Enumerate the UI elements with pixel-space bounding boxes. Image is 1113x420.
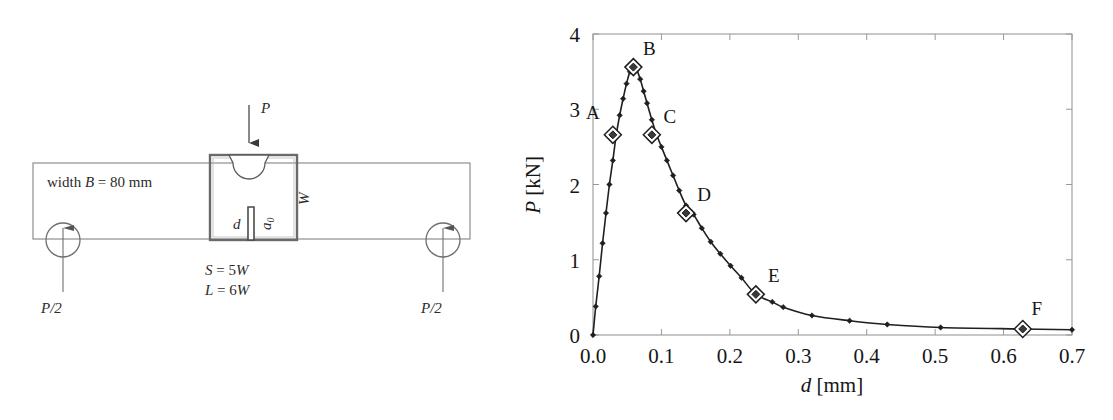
x-axis-title-symbol: d: [801, 373, 812, 397]
notch-slot: [248, 207, 254, 240]
reaction-right-label: P/2: [420, 300, 442, 316]
span-S-unit: W: [236, 262, 250, 278]
x-tick-label: 0.6: [990, 344, 1016, 368]
beam-depth-label: W: [296, 191, 312, 205]
load-displacement-chart: 0.00.10.20.30.40.50.60.7 01234 ABCDEF d …: [520, 0, 1113, 420]
x-axis-tick-labels: 0.00.10.20.30.40.50.60.7: [580, 344, 1085, 368]
span-L-symbol: L: [204, 282, 213, 298]
plot-frame: [593, 34, 1072, 335]
annotated-point-label-a: A: [586, 102, 600, 123]
span-S-value: = 5: [213, 262, 236, 278]
x-tick-label: 0.4: [854, 344, 881, 368]
y-axis-title-unit: [kN]: [521, 156, 545, 201]
beam-width-label: width B = 80 mm: [47, 174, 152, 190]
annotated-point-label-c: C: [664, 106, 677, 127]
y-axis-tick-labels: 01234: [570, 23, 581, 348]
a0-symbol: a: [258, 223, 274, 231]
y-tick-label: 0: [570, 324, 581, 348]
y-tick-label: 2: [570, 174, 581, 198]
x-tick-label: 0.1: [648, 344, 674, 368]
x-axis-title-unit: [mm]: [811, 373, 863, 397]
beam-width-prefix: width: [47, 174, 85, 190]
support-span-label: S = 5W: [205, 262, 250, 278]
x-tick-label: 0.2: [717, 344, 743, 368]
y-axis-title-symbol: P: [521, 201, 545, 215]
y-axis-title: P [kN]: [521, 156, 545, 215]
annotated-point-label-e: E: [768, 265, 780, 286]
y-tick-label: 3: [570, 98, 581, 122]
span-L-value: = 6: [213, 282, 237, 298]
y-tick-label: 1: [570, 249, 581, 273]
reaction-left-label: P/2: [40, 300, 62, 316]
figure-root: width B = 80 mm d a0 W P: [0, 0, 1113, 420]
span-L-unit: W: [237, 282, 251, 298]
load-label: P: [260, 100, 270, 116]
total-length-label: L = 6W: [204, 282, 251, 298]
annotated-point-label-b: B: [643, 38, 656, 59]
annotated-point-label-f: F: [1031, 298, 1042, 319]
x-axis-title: d [mm]: [801, 373, 863, 397]
beam-width-symbol: B: [85, 174, 94, 190]
notch-depth-label: d: [233, 216, 241, 232]
x-tick-label: 0.3: [785, 344, 811, 368]
x-tick-label: 0.7: [1059, 344, 1085, 368]
beam-diagram-panel: width B = 80 mm d a0 W P: [0, 0, 540, 420]
y-tick-label: 4: [570, 23, 581, 47]
annotated-point-label-d: D: [697, 184, 711, 205]
x-tick-label: 0.0: [580, 344, 606, 368]
a0-subscript: 0: [265, 218, 276, 223]
x-tick-label: 0.5: [922, 344, 948, 368]
beam-width-value: = 80 mm: [94, 174, 152, 190]
